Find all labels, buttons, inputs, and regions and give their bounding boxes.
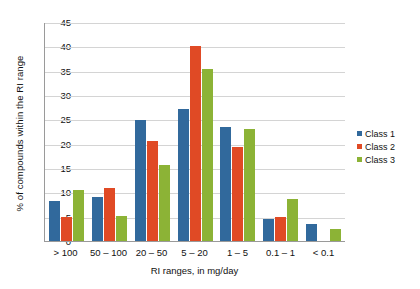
bar <box>92 197 103 241</box>
bar <box>49 201 60 241</box>
legend-label: Class 1 <box>365 129 395 139</box>
bar <box>220 127 231 241</box>
bar <box>190 46 201 241</box>
bar <box>135 120 146 241</box>
bar-group <box>302 23 345 241</box>
bar-group <box>216 23 259 241</box>
bar <box>73 190 84 241</box>
bar <box>232 147 243 241</box>
x-axis-tick-label: 5 – 20 <box>173 247 216 258</box>
bar <box>244 129 255 241</box>
x-axis-tick-label: 20 – 50 <box>130 247 173 258</box>
bar-group <box>259 23 302 241</box>
legend-label: Class 3 <box>365 155 395 165</box>
bar <box>330 229 341 241</box>
bar <box>104 188 115 241</box>
bar-groups <box>45 23 345 241</box>
x-axis-title: RI ranges, in mg/day <box>44 265 345 276</box>
bar <box>202 69 213 241</box>
bar-chart: % of compounds within the RI range 05101… <box>0 0 420 289</box>
bar-group <box>174 23 217 241</box>
bar <box>306 224 317 241</box>
bar <box>275 217 286 241</box>
bar <box>287 199 298 241</box>
bar <box>263 219 274 241</box>
x-axis-tick-label: 1 – 5 <box>216 247 259 258</box>
x-axis-tick-label: > 100 <box>44 247 87 258</box>
bar-group <box>88 23 131 241</box>
legend: Class 1Class 2Class 3 <box>357 127 395 166</box>
legend-swatch-icon <box>357 131 362 136</box>
legend-item[interactable]: Class 1 <box>357 127 395 140</box>
bar <box>61 217 72 241</box>
bar <box>159 165 170 241</box>
bar <box>116 216 127 241</box>
x-axis-tick-label: 0.1 – 1 <box>259 247 302 258</box>
x-axis-tick-labels: > 10050 – 10020 – 505 – 201 – 50.1 – 1< … <box>44 247 345 258</box>
legend-swatch-icon <box>357 144 362 149</box>
legend-item[interactable]: Class 3 <box>357 153 395 166</box>
bar <box>147 141 158 241</box>
y-axis-title: % of compounds within the RI range <box>14 29 25 239</box>
x-axis-tick-label: < 0.1 <box>302 247 345 258</box>
plot-area <box>44 23 345 242</box>
legend-label: Class 2 <box>365 142 395 152</box>
legend-swatch-icon <box>357 157 362 162</box>
bar-group <box>45 23 88 241</box>
bar-group <box>131 23 174 241</box>
x-axis-tick-label: 50 – 100 <box>87 247 130 258</box>
legend-item[interactable]: Class 2 <box>357 140 395 153</box>
bar <box>178 109 189 241</box>
